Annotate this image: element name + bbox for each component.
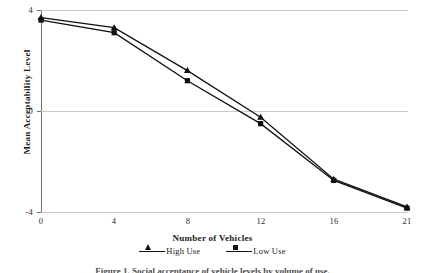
data-point-low-use-4[interactable] [112, 30, 117, 35]
series-line-low-use [41, 20, 407, 208]
data-point-low-use-0[interactable] [38, 18, 43, 23]
data-point-high-use-8[interactable] [184, 67, 191, 73]
legend-label-high-use: High Use [166, 246, 200, 256]
figure-caption: Figure 1. Social acceptance of vehicle l… [0, 266, 425, 273]
series-line-high-use [41, 18, 407, 207]
data-point-low-use-12[interactable] [258, 121, 263, 126]
x-axis-title: Number of Vehicles [0, 233, 425, 243]
legend-item-low-use[interactable]: Low Use [226, 246, 285, 256]
data-point-high-use-12[interactable] [257, 114, 264, 120]
legend-label-low-use: Low Use [253, 246, 285, 256]
data-point-low-use-16[interactable] [331, 178, 336, 183]
legend-item-high-use[interactable]: High Use [139, 246, 200, 256]
legend-marker-triangle-icon [139, 247, 165, 256]
chart-legend: High Use Low Use [0, 246, 425, 256]
data-point-low-use-21[interactable] [404, 206, 409, 211]
data-point-low-use-8[interactable] [185, 78, 190, 83]
figure-chart: Mean Acceptability Level 4 0 -4 0 4 8 12… [0, 0, 425, 273]
legend-marker-square-icon [226, 247, 252, 256]
